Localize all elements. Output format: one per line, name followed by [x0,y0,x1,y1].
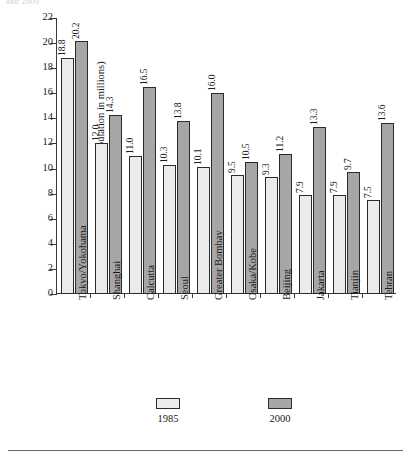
bar-value-label: 13.3 [309,109,319,126]
bar-value-label: 11.0 [125,138,135,154]
y-tick-label: 6 [48,212,53,223]
bar-value-label: 13.8 [173,102,183,119]
bar-value-label: 9.7 [343,158,353,170]
bar-value-label: 12.0 [91,125,101,142]
y-tick-label: 14 [43,111,54,122]
chart-legend: 19852000 [0,398,411,442]
legend-label: 2000 [250,413,310,424]
category-label-text: Greater Bombay [213,230,224,300]
bar-value-label: 16.0 [207,75,217,92]
x-axis-separator [158,293,159,298]
bar: 9.5 [231,175,244,294]
bar-value-label: 10.5 [241,144,251,161]
bar-value-label: 7.9 [329,181,339,193]
category-label-text: Tehran [383,271,394,300]
legend-swatch [268,398,292,409]
legend-swatch [156,398,180,409]
bar-value-label: 9.5 [227,161,237,173]
x-axis-separator [362,293,363,298]
x-axis-separator [294,293,295,298]
plot-area: (Population in millions) 024681012141618… [56,18,396,294]
category-label-text: Beijing [281,269,292,300]
y-tick-label: 22 [43,11,54,22]
bar: 11.0 [129,156,142,294]
cut-off-header-text: and 2000 [6,0,40,6]
bar: 13.6 [381,123,394,294]
legend-item: 2000 [250,398,310,424]
y-tick-label: 0 [48,287,53,298]
bar: 7.5 [367,200,380,294]
y-axis-line [56,18,57,294]
y-tick-label: 18 [43,61,54,72]
category-label-text: Tokyo/Yokohama [77,225,88,300]
bar: 10.1 [197,167,210,294]
category-label-text: Tianjin [349,270,360,300]
x-axis-separator [260,293,261,298]
bar-value-label: 18.8 [57,40,67,57]
bar: 16.5 [143,87,156,294]
bar-value-label: 14.3 [105,96,115,113]
bar-value-label: 13.6 [377,105,387,122]
bar: 7.9 [299,195,312,294]
bar-value-label: 7.5 [363,186,373,198]
bar-value-label: 16.5 [139,68,149,85]
bar-value-label: 10.1 [193,149,203,166]
category-label-text: Shanghai [111,261,122,300]
legend-item: 1985 [138,398,198,424]
y-tick-label: 20 [43,36,54,47]
y-tick-label: 16 [43,86,54,97]
bar-value-label: 9.3 [261,163,271,175]
bar: 10.3 [163,165,176,294]
y-tick-label: 4 [48,237,53,248]
x-axis-separator [192,293,193,298]
y-tick-label: 8 [48,187,53,198]
bar: 18.8 [61,58,74,294]
category-label-text: Jakarta [315,270,326,300]
bar: 9.3 [265,177,278,294]
category-label-text: Calcutta [145,265,156,300]
bar-value-label: 20.2 [71,22,81,39]
legend-label: 1985 [138,413,198,424]
bar: 7.9 [333,195,346,294]
bar: 12.0 [95,143,108,294]
y-tick-label: 12 [43,136,54,147]
category-label-text: Osaka/Kobe [247,248,258,300]
bar-chart-figure: and 2000 (Population in millions) 024681… [0,0,411,467]
y-tick-label: 2 [48,262,53,273]
bar-value-label: 7.9 [295,181,305,193]
x-axis-separator [90,293,91,298]
bar-value-label: 10.3 [159,146,169,163]
category-label-text: Seoul [179,276,190,300]
y-tick-label: 10 [43,162,54,173]
bar: 13.3 [313,127,326,294]
bar: 13.8 [177,121,190,294]
bottom-divider [8,450,403,451]
x-axis-separator [226,293,227,298]
x-axis-separator [328,293,329,298]
bar-value-label: 11.2 [275,135,285,151]
x-axis-separator [124,293,125,298]
